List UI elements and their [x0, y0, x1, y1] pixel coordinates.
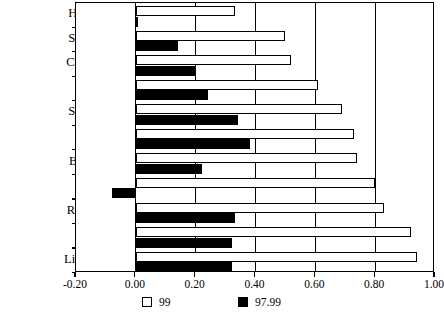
bar-cee-97.99 — [136, 90, 208, 100]
bar-estonia-97.99 — [136, 238, 232, 248]
x-tick — [314, 272, 315, 277]
plot-area — [75, 2, 434, 272]
bar-group — [76, 28, 433, 53]
legend-swatch-black — [238, 297, 248, 307]
bar-latvia-99 — [136, 178, 375, 188]
x-tick — [374, 272, 375, 277]
bar-bulgaria-99 — [136, 153, 357, 163]
bar-romania-99 — [136, 203, 384, 213]
bar-slovenia-99 — [136, 104, 342, 114]
bar-group — [76, 199, 433, 224]
bar-lithuania-97.99 — [136, 262, 232, 272]
x-tick — [254, 272, 255, 277]
bar-group — [76, 3, 433, 28]
x-tick-label: 0.00 — [125, 278, 145, 290]
bar-group — [76, 101, 433, 126]
legend-entry-97.99[interactable]: 97.99 — [238, 296, 281, 308]
bar-group — [76, 52, 433, 77]
legend-swatch-white — [142, 297, 152, 307]
legend-entry-99[interactable]: 99 — [142, 296, 171, 308]
bar-cee-99 — [136, 80, 318, 90]
bar-group — [76, 248, 433, 273]
bar-slovakia-99 — [136, 31, 286, 41]
bar-bulgaria-97.99 — [136, 164, 202, 174]
bar-group — [76, 77, 433, 102]
x-tick — [433, 272, 434, 277]
bar-poland-99 — [136, 129, 354, 139]
bar-group — [76, 126, 433, 151]
x-tick-label: 0.60 — [304, 278, 324, 290]
bar-slovakia-97.99 — [136, 41, 178, 51]
bar-poland-97.99 — [136, 139, 250, 149]
legend-label: 99 — [159, 296, 171, 308]
bar-hungary-99 — [136, 6, 235, 16]
bar-lithuania-99 — [136, 252, 417, 262]
x-tick-label: 1.00 — [424, 278, 444, 290]
x-axis: -0.200.000.200.400.600.801.00 — [0, 272, 441, 294]
legend-label: 97.99 — [255, 296, 281, 308]
bar-group — [76, 175, 433, 200]
bar-latvia-97.99 — [112, 188, 136, 198]
bar-hungary-97.99 — [136, 17, 138, 27]
x-tick-label: 0.40 — [244, 278, 264, 290]
x-tick — [74, 272, 75, 277]
bar-romania-97.99 — [136, 213, 235, 223]
bar-estonia-99 — [136, 227, 411, 237]
x-tick — [134, 272, 135, 277]
x-tick-label: -0.20 — [63, 278, 87, 290]
x-tick — [194, 272, 195, 277]
chart-legend: 9997.99 — [0, 296, 441, 314]
bar-czech-r-99 — [136, 55, 292, 65]
bar-czech-r-97.99 — [136, 66, 196, 76]
x-tick-label: 0.80 — [364, 278, 384, 290]
x-tick-label: 0.20 — [185, 278, 205, 290]
bar-slovenia-97.99 — [136, 115, 238, 125]
bar-group — [76, 150, 433, 175]
bar-group — [76, 224, 433, 249]
